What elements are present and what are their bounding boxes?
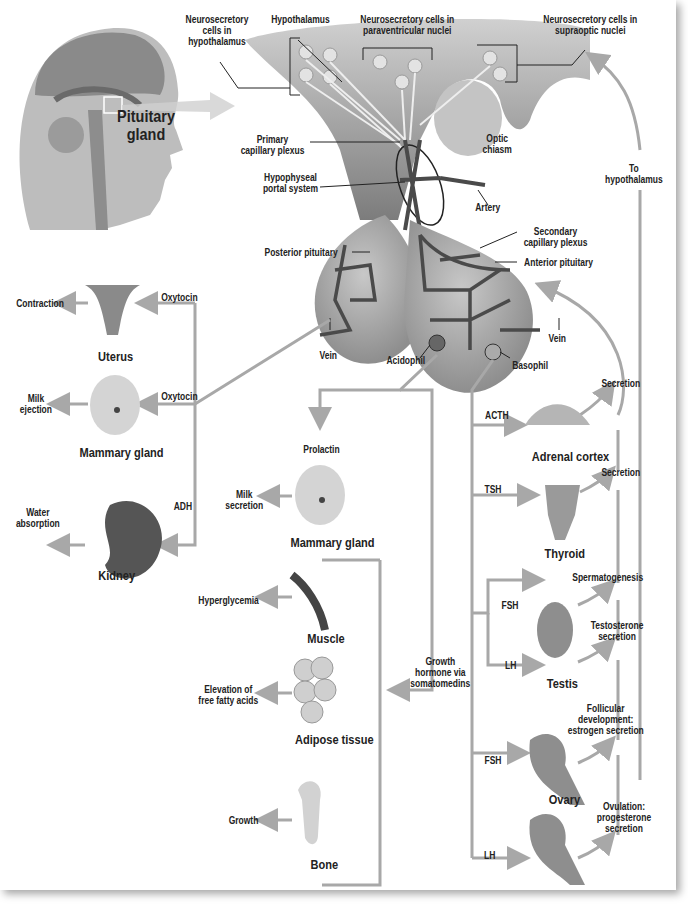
posterior-pituitary-label: Posterior pituitary <box>264 247 337 258</box>
muscle-label: Muscle <box>307 632 344 646</box>
vein-left-label: Vein <box>320 350 337 361</box>
hypothalamus-label: Hypothalamus <box>271 14 330 25</box>
secondary-capillary-plexus-label: Secondary capillary plexus <box>524 226 588 248</box>
tsh-label: TSH <box>485 484 502 495</box>
contraction-label: Contraction <box>16 298 64 309</box>
acidophil-label: Acidophil <box>386 355 425 366</box>
oxytocin-uterus-label: Oxytocin <box>161 292 197 303</box>
optic-chiasm-label: Optic chiasm <box>483 133 512 155</box>
adipose-tissue-label: Adipose tissue <box>295 733 374 747</box>
growth-effect-label: Growth <box>229 815 259 826</box>
oxytocin-mammary-label: Oxytocin <box>161 391 197 402</box>
growth-hormone-label: Growth hormone via somatomedins <box>410 656 470 689</box>
vein-right-label: Vein <box>549 333 566 344</box>
adrenal-cortex-label: Adrenal cortex <box>532 450 609 464</box>
hypophyseal-portal-system-label: Hypophyseal portal system <box>263 172 318 194</box>
supraoptic-label: Neurosecretory cells in supraoptic nucle… <box>543 14 637 36</box>
ovary-label: Ovary <box>549 793 580 807</box>
hypothalamus-illustration <box>245 19 590 231</box>
organ-illustrations <box>85 285 590 885</box>
primary-capillary-plexus-label: Primary capillary plexus <box>241 134 305 156</box>
free-fatty-acids-label: Elevation of free fatty acids <box>198 684 258 706</box>
fsh-ovary-label: FSH <box>485 755 502 766</box>
paraventricular-label: Neurosecretory cells in paraventricular … <box>360 14 454 36</box>
mammary-gland-label: Mammary gland <box>79 446 163 460</box>
follicular-development-label: Follicular development: estrogen secreti… <box>568 703 644 736</box>
pituitary-gland-label: Pituitary gland <box>117 108 175 144</box>
neurosecretory-hypothalamus-label: Neurosecretory cells in hypothalamus <box>186 14 249 47</box>
artery-label: Artery <box>475 202 500 213</box>
lh-ovary-label: LH <box>484 850 495 861</box>
acth-label: ACTH <box>485 410 509 421</box>
basophil-label: Basophil <box>512 360 548 371</box>
water-absorption-label: Water absorption <box>16 507 60 529</box>
to-hypothalamus-label: To hypothalamus <box>605 163 663 185</box>
milk-ejection-label: Milk ejection <box>20 393 52 415</box>
spermatogenesis-label: Spermatogenesis <box>572 572 643 583</box>
testis-label: Testis <box>547 677 578 691</box>
ovulation-label: Ovulation: progesterone secretion <box>597 801 651 834</box>
lh-testis-label: LH <box>505 660 516 671</box>
secretion-thyroid-label: Secretion <box>601 467 640 478</box>
uterus-label: Uterus <box>98 350 133 364</box>
secretion-adrenal-label: Secretion <box>601 378 640 389</box>
fsh-testis-label: FSH <box>502 600 519 611</box>
bone-label: Bone <box>310 858 338 872</box>
adh-label: ADH <box>174 501 192 512</box>
anterior-pituitary-label: Anterior pituitary <box>524 257 593 268</box>
thyroid-label: Thyroid <box>545 547 586 561</box>
testosterone-secretion-label: Testosterone secretion <box>591 620 644 642</box>
kidney-label: Kidney <box>98 569 135 583</box>
hyperglycemia-label: Hyperglycemia <box>198 595 258 606</box>
mammary-gland-prolactin-label: Mammary gland <box>290 536 374 550</box>
milk-secretion-label: Milk secretion <box>225 489 263 511</box>
prolactin-label: Prolactin <box>303 444 339 455</box>
